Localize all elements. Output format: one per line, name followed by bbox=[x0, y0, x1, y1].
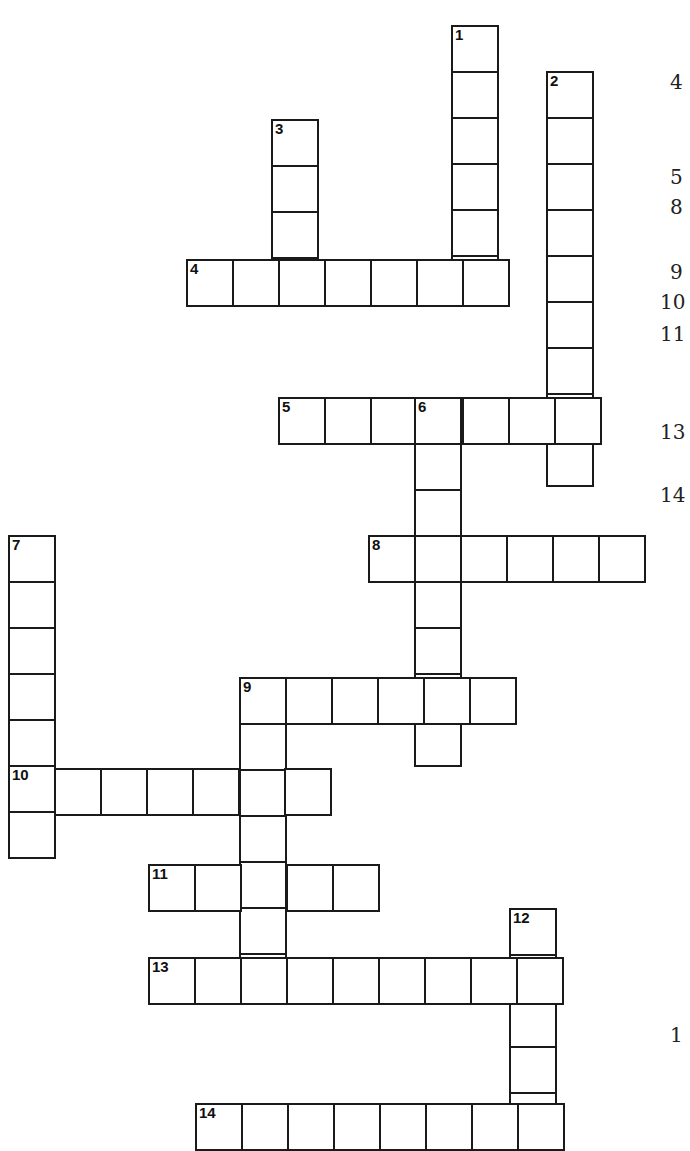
crossword-cell[interactable] bbox=[451, 209, 499, 257]
crossword-cell[interactable] bbox=[8, 719, 56, 767]
clue-number-label: 12 bbox=[513, 910, 530, 926]
clue-number-label: 2 bbox=[550, 73, 558, 89]
crossword-cell[interactable] bbox=[546, 347, 594, 395]
clue-number-label: 10 bbox=[12, 767, 29, 783]
crossword-cell[interactable] bbox=[54, 768, 102, 816]
crossword-cell[interactable] bbox=[546, 255, 594, 303]
crossword-cell[interactable] bbox=[100, 768, 148, 816]
clue-list-number: 5 bbox=[670, 165, 683, 189]
crossword-cell[interactable] bbox=[8, 627, 56, 675]
crossword-cell[interactable] bbox=[414, 581, 462, 629]
crossword-cell[interactable] bbox=[451, 163, 499, 211]
crossword-cell[interactable] bbox=[331, 677, 379, 725]
crossword-cell[interactable] bbox=[451, 117, 499, 165]
clue-list-number: 1 bbox=[670, 1023, 683, 1047]
crossword-cell[interactable] bbox=[271, 165, 319, 213]
clue-number-label: 5 bbox=[282, 399, 290, 415]
crossword-cell[interactable] bbox=[414, 489, 462, 537]
crossword-cell[interactable] bbox=[286, 864, 334, 912]
crossword-cell[interactable] bbox=[377, 677, 425, 725]
crossword-cell[interactable] bbox=[424, 957, 472, 1005]
crossword-cell[interactable] bbox=[278, 259, 326, 307]
crossword-cell[interactable] bbox=[8, 673, 56, 721]
crossword-cell[interactable]: 14 bbox=[195, 1103, 243, 1151]
crossword-cell[interactable] bbox=[324, 397, 372, 445]
crossword-cell[interactable]: 13 bbox=[148, 957, 196, 1005]
crossword-cell[interactable] bbox=[460, 535, 508, 583]
clue-list-number: 4 bbox=[670, 70, 683, 94]
crossword-cell[interactable]: 5 bbox=[278, 397, 326, 445]
crossword-cell[interactable] bbox=[194, 864, 242, 912]
crossword-cell[interactable] bbox=[546, 301, 594, 349]
clue-number-label: 7 bbox=[12, 537, 20, 553]
crossword-cell[interactable] bbox=[462, 397, 510, 445]
crossword-cell[interactable] bbox=[509, 1046, 557, 1094]
crossword-cell[interactable] bbox=[414, 443, 462, 491]
clue-list-number: 9 bbox=[670, 260, 683, 284]
crossword-cell[interactable] bbox=[416, 259, 464, 307]
crossword-cell[interactable] bbox=[451, 71, 499, 119]
clue-number-label: 6 bbox=[418, 399, 426, 415]
crossword-cell[interactable]: 3 bbox=[271, 119, 319, 167]
crossword-cell[interactable] bbox=[370, 259, 418, 307]
crossword-cell[interactable]: 2 bbox=[546, 71, 594, 119]
crossword-cell[interactable]: 12 bbox=[509, 908, 557, 956]
crossword-cell[interactable] bbox=[239, 907, 287, 955]
crossword-cell[interactable] bbox=[546, 439, 594, 487]
crossword-cell[interactable] bbox=[506, 535, 554, 583]
crossword-cell[interactable] bbox=[239, 815, 287, 863]
crossword-cell[interactable] bbox=[517, 1103, 565, 1151]
crossword-cell[interactable] bbox=[239, 723, 287, 771]
crossword-cell[interactable] bbox=[414, 719, 462, 767]
crossword-cell[interactable] bbox=[470, 957, 518, 1005]
crossword-cell[interactable] bbox=[285, 677, 333, 725]
crossword-cell[interactable] bbox=[241, 1103, 289, 1151]
crossword-cell[interactable] bbox=[194, 957, 242, 1005]
clue-number-label: 1 bbox=[455, 27, 463, 43]
crossword-cell[interactable]: 7 bbox=[8, 535, 56, 583]
crossword-cell[interactable] bbox=[598, 535, 646, 583]
crossword-cell[interactable]: 6 bbox=[414, 397, 462, 445]
crossword-cell[interactable] bbox=[240, 957, 288, 1005]
crossword-cell[interactable] bbox=[546, 209, 594, 257]
crossword-cell[interactable]: 8 bbox=[368, 535, 416, 583]
crossword-cell[interactable] bbox=[8, 811, 56, 859]
crossword-cell[interactable] bbox=[423, 677, 471, 725]
crossword-cell[interactable] bbox=[239, 861, 287, 909]
crossword-cell[interactable] bbox=[324, 259, 372, 307]
crossword-cell[interactable] bbox=[332, 957, 380, 1005]
crossword-cell[interactable] bbox=[378, 957, 426, 1005]
crossword-cell[interactable] bbox=[509, 1000, 557, 1048]
crossword-cell[interactable] bbox=[554, 397, 602, 445]
crossword-cell[interactable] bbox=[552, 535, 600, 583]
crossword-cell[interactable] bbox=[192, 768, 240, 816]
crossword-cell[interactable] bbox=[146, 768, 194, 816]
crossword-cell[interactable] bbox=[239, 769, 287, 817]
crossword-cell[interactable]: 4 bbox=[186, 259, 234, 307]
crossword-cell[interactable] bbox=[271, 211, 319, 259]
crossword-cell[interactable] bbox=[284, 768, 332, 816]
clue-number-label: 9 bbox=[243, 679, 251, 695]
crossword-cell[interactable] bbox=[286, 957, 334, 1005]
crossword-cell[interactable] bbox=[462, 259, 510, 307]
crossword-cell[interactable] bbox=[508, 397, 556, 445]
crossword-cell[interactable] bbox=[333, 1103, 381, 1151]
crossword-cell[interactable] bbox=[232, 259, 280, 307]
crossword-cell[interactable] bbox=[516, 957, 564, 1005]
crossword-cell[interactable] bbox=[370, 397, 418, 445]
crossword-cell[interactable] bbox=[469, 677, 517, 725]
crossword-cell[interactable] bbox=[8, 581, 56, 629]
crossword-cell[interactable] bbox=[379, 1103, 427, 1151]
crossword-cell[interactable]: 1 bbox=[451, 25, 499, 73]
crossword-cell[interactable]: 10 bbox=[8, 765, 56, 813]
crossword-cell[interactable] bbox=[287, 1103, 335, 1151]
crossword-cell[interactable]: 11 bbox=[148, 864, 196, 912]
crossword-cell[interactable] bbox=[546, 163, 594, 211]
crossword-cell[interactable] bbox=[414, 627, 462, 675]
crossword-cell[interactable] bbox=[414, 535, 462, 583]
crossword-cell[interactable] bbox=[332, 864, 380, 912]
crossword-cell[interactable] bbox=[546, 117, 594, 165]
crossword-cell[interactable] bbox=[471, 1103, 519, 1151]
crossword-cell[interactable] bbox=[425, 1103, 473, 1151]
crossword-cell[interactable]: 9 bbox=[239, 677, 287, 725]
